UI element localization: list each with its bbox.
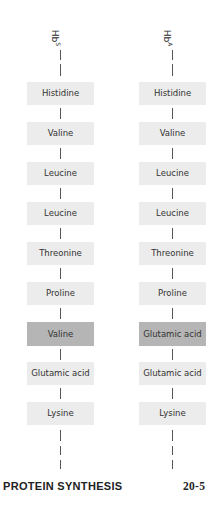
label-text: Hb [162, 30, 172, 42]
residue-box: Leucine [139, 202, 206, 225]
bond-line [172, 460, 173, 469]
bond-line [172, 188, 173, 199]
bond-line [60, 349, 61, 360]
bond-line [172, 228, 173, 239]
residue-box-highlighted: Valine [27, 322, 94, 346]
bond-line [172, 148, 173, 159]
residue-box: Glutamic acid [27, 362, 94, 385]
residue-box: Valine [27, 122, 94, 145]
bond-line [60, 268, 61, 279]
residue-box: Threonine [27, 242, 94, 265]
residue-box-highlighted: Glutamic acid [139, 322, 206, 346]
label-text: Hb [50, 30, 60, 42]
page-title: PROTEIN SYNTHESIS [3, 480, 122, 492]
label-superscript: S [55, 42, 62, 46]
bond-line [172, 388, 173, 399]
residue-box: Leucine [139, 162, 206, 185]
page-number: 20-5 [183, 480, 205, 492]
residue-box: Proline [27, 282, 94, 305]
bond-line [172, 308, 173, 319]
bond-line [60, 64, 61, 76]
bond-line [60, 148, 61, 159]
bond-line [60, 430, 61, 441]
bond-line [172, 64, 173, 76]
bond-line [60, 446, 61, 455]
residue-box: Lysine [139, 402, 206, 425]
residue-box: Histidine [27, 82, 94, 105]
residue-box: Lysine [27, 402, 94, 425]
residue-box: Proline [139, 282, 206, 305]
bond-line [60, 108, 61, 119]
residue-box: Leucine [27, 202, 94, 225]
bond-line [60, 188, 61, 199]
bond-line [60, 228, 61, 239]
bond-line [172, 108, 173, 119]
residue-box: Histidine [139, 82, 206, 105]
residue-box: Leucine [27, 162, 94, 185]
residue-box: Glutamic acid [139, 362, 206, 385]
chain-label-hba: HbA [164, 26, 184, 50]
bond-line [172, 268, 173, 279]
chain-label-hbs: HbS [52, 26, 72, 50]
bond-line [60, 460, 61, 469]
bond-line [172, 430, 173, 441]
bond-line [60, 50, 61, 60]
bond-line [172, 349, 173, 360]
residue-box: Valine [139, 122, 206, 145]
label-superscript: A [167, 42, 174, 46]
bond-line [60, 388, 61, 399]
bond-line [172, 50, 173, 60]
bond-line [60, 308, 61, 319]
residue-box: Threonine [139, 242, 206, 265]
bond-line [172, 446, 173, 455]
